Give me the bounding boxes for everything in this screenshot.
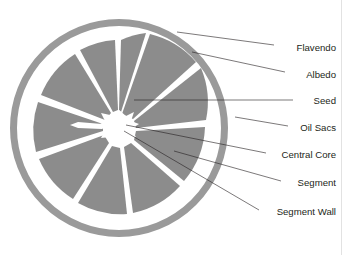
label-central-core: Central Core bbox=[282, 149, 336, 160]
leader-line-oil-sacs bbox=[235, 117, 288, 126]
citrus-anatomy-figure: Flavendo Albedo Seed Oil Sacs Central Co… bbox=[0, 0, 345, 255]
label-segment: Segment bbox=[298, 177, 337, 188]
leader-line-flavendo bbox=[177, 32, 274, 45]
label-seed: Seed bbox=[314, 95, 336, 106]
label-group: Flavendo Albedo Seed Oil Sacs Central Co… bbox=[277, 42, 337, 217]
citrus-cross-section-diagram: Flavendo Albedo Seed Oil Sacs Central Co… bbox=[0, 0, 345, 255]
label-oil-sacs: Oil Sacs bbox=[300, 122, 336, 133]
label-flavendo: Flavendo bbox=[297, 42, 336, 53]
label-segment-wall: Segment Wall bbox=[277, 206, 336, 217]
label-albedo: Albedo bbox=[306, 69, 336, 80]
